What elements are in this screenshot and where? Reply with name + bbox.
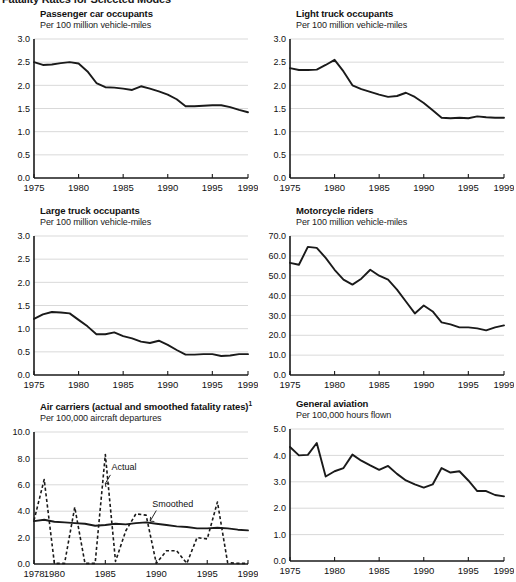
chart-plot-air-carriers: 0.02.04.06.08.010.0197819801985199019951…	[0, 426, 258, 582]
x-tick-label: 1999	[493, 182, 514, 193]
chart-subtitle: Per 100,000 hours flown	[296, 410, 514, 421]
x-tick-label: 1980	[324, 182, 345, 193]
series-line-actual	[34, 455, 248, 564]
y-tick-label: 50.0	[268, 271, 286, 281]
y-tick-label: 2.5	[17, 254, 30, 264]
annotation-actual: Actual	[111, 462, 136, 472]
y-tick-label: 2.5	[17, 57, 30, 67]
x-tick-label: 1975	[279, 565, 300, 576]
x-tick-label: 1990	[413, 565, 434, 576]
y-tick-label: 3.0	[273, 34, 286, 44]
x-tick-label: 1990	[413, 379, 434, 390]
y-tick-label: 0.5	[17, 150, 30, 160]
y-tick-label: 10.0	[12, 427, 30, 437]
annotation-smoothed: Smoothed	[152, 499, 193, 509]
x-tick-label: 1978	[23, 568, 44, 579]
y-tick-label: 1.0	[273, 530, 286, 540]
y-tick-label: 1.0	[17, 127, 30, 137]
y-tick-label: 3.0	[17, 231, 30, 241]
chart-title: Large truck occupants	[40, 205, 258, 216]
y-tick-label: 10.0	[268, 350, 286, 360]
y-tick-label: 4.0	[273, 451, 286, 461]
chart-plot-light-truck-occupants: 0.00.51.01.52.02.53.01975198019851990199…	[256, 33, 514, 198]
series-line	[34, 312, 248, 356]
x-tick-label: 1975	[23, 379, 44, 390]
x-tick-label: 1985	[369, 182, 390, 193]
chart-panel-general-aviation: General aviation Per 100,000 hours flown…	[256, 398, 514, 582]
chart-plot-passenger-car-occupants: 0.00.51.01.52.02.53.01975198019851990199…	[0, 33, 258, 198]
y-tick-label: 0.5	[273, 150, 286, 160]
x-tick-label: 1995	[458, 565, 479, 576]
y-tick-label: 70.0	[268, 231, 286, 241]
x-tick-label: 1995	[202, 379, 223, 390]
y-tick-label: 2.0	[17, 81, 30, 91]
series-line-smoothed	[34, 520, 248, 531]
x-tick-label: 1990	[157, 379, 178, 390]
y-tick-label: 1.0	[17, 324, 30, 334]
x-tick-label: 1985	[369, 379, 390, 390]
chart-subtitle: Per 100 million vehicle-miles	[40, 20, 258, 31]
x-tick-label: 1990	[157, 182, 178, 193]
y-tick-label: 2.0	[17, 533, 30, 543]
x-tick-label: 1980	[324, 565, 345, 576]
y-tick-label: 2.5	[273, 57, 286, 67]
chart-title: Air carriers (actual and smoothed fatali…	[40, 398, 258, 412]
chart-title: General aviation	[296, 398, 514, 409]
y-tick-label: 5.0	[273, 424, 286, 434]
x-tick-label: 1980	[68, 182, 89, 193]
x-tick-label: 1985	[113, 379, 134, 390]
y-tick-label: 1.5	[17, 301, 30, 311]
x-tick-label: 1980	[324, 379, 345, 390]
chart-subtitle: Per 100,000 aircraft departures	[40, 413, 258, 424]
y-tick-label: 2.0	[273, 81, 286, 91]
chart-panel-light-truck-occupants: Light truck occupants Per 100 million ve…	[256, 8, 514, 202]
series-line	[290, 60, 504, 118]
chart-panel-air-carriers: Air carriers (actual and smoothed fatali…	[0, 398, 258, 582]
x-tick-label: 1999	[237, 379, 258, 390]
y-tick-label: 1.0	[273, 127, 286, 137]
y-tick-label: 2.0	[17, 278, 30, 288]
chart-plot-general-aviation: 0.01.02.03.04.05.01975198019851990199519…	[256, 423, 514, 581]
y-tick-label: 30.0	[268, 311, 286, 321]
x-tick-label: 1980	[68, 379, 89, 390]
x-tick-label: 1999	[237, 182, 258, 193]
x-tick-label: 1975	[23, 182, 44, 193]
chart-subtitle: Per 100 million vehicle-miles	[296, 217, 514, 228]
x-tick-label: 1999	[237, 568, 258, 579]
x-tick-label: 1995	[202, 182, 223, 193]
y-tick-label: 1.5	[17, 104, 30, 114]
chart-plot-motorcycle-riders: 0.010.020.030.040.050.060.070.0197519801…	[256, 230, 514, 395]
chart-plot-large-truck-occupants: 0.00.51.01.52.02.53.01975198019851990199…	[0, 230, 258, 395]
x-tick-label: 1975	[279, 379, 300, 390]
series-line	[290, 443, 504, 496]
series-line	[34, 62, 248, 112]
chart-title: Light truck occupants	[296, 8, 514, 19]
x-tick-label: 1995	[197, 568, 218, 579]
series-line	[290, 247, 504, 330]
x-tick-label: 1995	[458, 182, 479, 193]
y-tick-label: 3.0	[17, 34, 30, 44]
page-title: Fatality Rates for Selected Modes	[2, 0, 171, 5]
y-tick-label: 60.0	[268, 251, 286, 261]
x-tick-label: 1999	[493, 379, 514, 390]
chart-subtitle: Per 100 million vehicle-miles	[40, 217, 258, 228]
y-tick-label: 3.0	[273, 477, 286, 487]
x-tick-label: 1990	[413, 182, 434, 193]
x-tick-label: 1980	[44, 568, 65, 579]
footnote-marker: 1	[248, 400, 252, 407]
y-tick-label: 4.0	[17, 507, 30, 517]
y-tick-label: 0.5	[17, 347, 30, 357]
x-tick-label: 1985	[113, 182, 134, 193]
y-tick-label: 6.0	[17, 480, 30, 490]
x-tick-label: 1995	[458, 379, 479, 390]
y-tick-label: 8.0	[17, 454, 30, 464]
x-tick-label: 1985	[95, 568, 116, 579]
chart-title-text: Air carriers (actual and smoothed fatali…	[40, 401, 248, 412]
x-tick-label: 1999	[493, 565, 514, 576]
chart-subtitle: Per 100 million vehicle-miles	[296, 20, 514, 31]
y-tick-label: 2.0	[273, 503, 286, 513]
x-tick-label: 1975	[279, 182, 300, 193]
chart-title: Motorcycle riders	[296, 205, 514, 216]
chart-panel-motorcycle-riders: Motorcycle riders Per 100 million vehicl…	[256, 205, 514, 399]
x-tick-label: 1990	[146, 568, 167, 579]
